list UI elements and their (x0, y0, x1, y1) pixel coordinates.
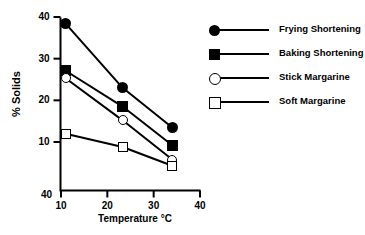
data-point-marker (61, 73, 71, 83)
legend-item-square-filled: Baking Shortening (207, 42, 365, 66)
legend-label: Frying Shortening (279, 23, 361, 34)
legend-marker-icon (209, 25, 220, 36)
x-axis-title: Temperature °C (60, 213, 210, 224)
x-tick-label: 10 (48, 201, 74, 211)
x-tick-label: 20 (94, 201, 120, 211)
data-point-marker (61, 129, 71, 139)
x-tick-label: 30 (141, 201, 167, 211)
legend-item-circle-open: Stick Margarine (207, 66, 365, 90)
y-tick-label: 20 (24, 95, 50, 105)
axis-corner-label: 40 (26, 190, 52, 200)
data-point-marker (118, 115, 128, 125)
legend-marker-icon (209, 73, 221, 85)
data-point-marker (117, 101, 128, 112)
y-tick-label: 30 (24, 54, 50, 64)
x-tick-label: 40 (187, 201, 213, 211)
y-tick-label: 10 (24, 137, 50, 147)
data-point-marker (167, 140, 178, 151)
legend-label: Soft Margarine (279, 95, 346, 106)
chart-figure: % Solids 4030201010203040 40 Temperature… (0, 0, 365, 235)
legend-label: Stick Margarine (279, 71, 350, 82)
data-point-marker (167, 161, 177, 171)
legend-marker-icon (209, 97, 221, 109)
legend-item-circle-filled: Frying Shortening (207, 18, 365, 42)
data-point-marker (167, 122, 178, 133)
chart-legend: Frying ShorteningBaking ShorteningStick … (207, 18, 365, 114)
data-point-marker (118, 142, 128, 152)
legend-marker-icon (209, 49, 220, 60)
legend-item-square-open: Soft Margarine (207, 90, 365, 114)
legend-label: Baking Shortening (279, 47, 363, 58)
y-tick-label: 40 (24, 12, 50, 22)
